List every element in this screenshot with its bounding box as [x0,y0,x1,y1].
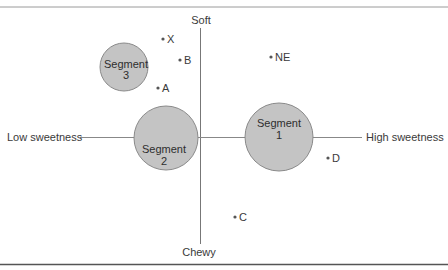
point-a: A [156,82,170,94]
point-d: D [326,152,340,164]
perceptual-map: Segment 1 Segment 2 Segment 3 Soft Chewy… [0,0,448,270]
point-ne: NE [269,51,290,63]
segment-1-label-line2: 1 [276,129,282,141]
point-x-label: X [167,33,175,45]
point-d-label: D [332,152,340,164]
axis-label-soft: Soft [191,14,211,26]
point-b-label: B [184,54,191,66]
point-ne-label: NE [275,51,290,63]
axis-label-chewy: Chewy [182,246,216,258]
point-c-label: C [239,211,247,223]
axis-label-high-sweetness: High sweetness [366,131,444,143]
point-c: C [233,211,247,223]
segment-2-label-line2: 2 [161,155,167,167]
point-x: X [161,33,175,45]
segment-1: Segment 1 [245,103,313,171]
point-a-label: A [162,82,170,94]
segment-3-label-line2: 3 [123,69,129,81]
segment-1-label-line1: Segment [257,117,301,129]
segment-2: Segment 2 [134,106,198,170]
segment-3: Segment 3 [100,43,148,91]
axis-label-low-sweetness: Low sweetness [7,131,83,143]
segment-2-label-line1: Segment [142,143,186,155]
point-b: B [178,54,191,66]
